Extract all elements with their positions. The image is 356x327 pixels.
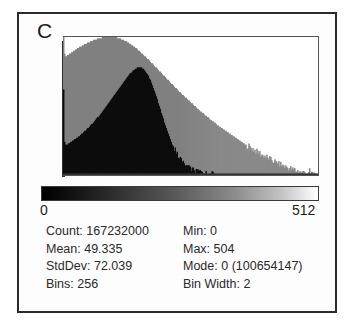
statistics-column-right: Min: 0 Max: 504 Mode: 0 (100654147) Bin … bbox=[183, 223, 331, 293]
x-axis-min-label: 0 bbox=[40, 203, 48, 217]
histogram-plot-frame bbox=[63, 36, 319, 176]
statistics-block: Count: 167232000 Mean: 49.335 StdDev: 72… bbox=[46, 223, 331, 293]
stat-bins: Bins: 256 bbox=[46, 276, 183, 294]
panel-letter: C bbox=[37, 20, 52, 41]
stat-max: Max: 504 bbox=[183, 241, 331, 259]
x-axis-max-label: 512 bbox=[292, 203, 315, 217]
histogram-plot bbox=[63, 37, 318, 175]
stat-mode: Mode: 0 (100654147) bbox=[183, 258, 331, 276]
stat-min: Min: 0 bbox=[183, 223, 331, 241]
stat-stddev: StdDev: 72.039 bbox=[46, 258, 183, 276]
stat-mean: Mean: 49.335 bbox=[46, 241, 183, 259]
lut-grayscale-ramp bbox=[41, 186, 319, 201]
stat-count: Count: 167232000 bbox=[46, 223, 183, 241]
figure-panel: C 0 512 Count: 167232000 Mean: 49.335 St… bbox=[17, 12, 337, 313]
stat-bin-width: Bin Width: 2 bbox=[183, 276, 331, 294]
statistics-column-left: Count: 167232000 Mean: 49.335 StdDev: 72… bbox=[46, 223, 183, 293]
